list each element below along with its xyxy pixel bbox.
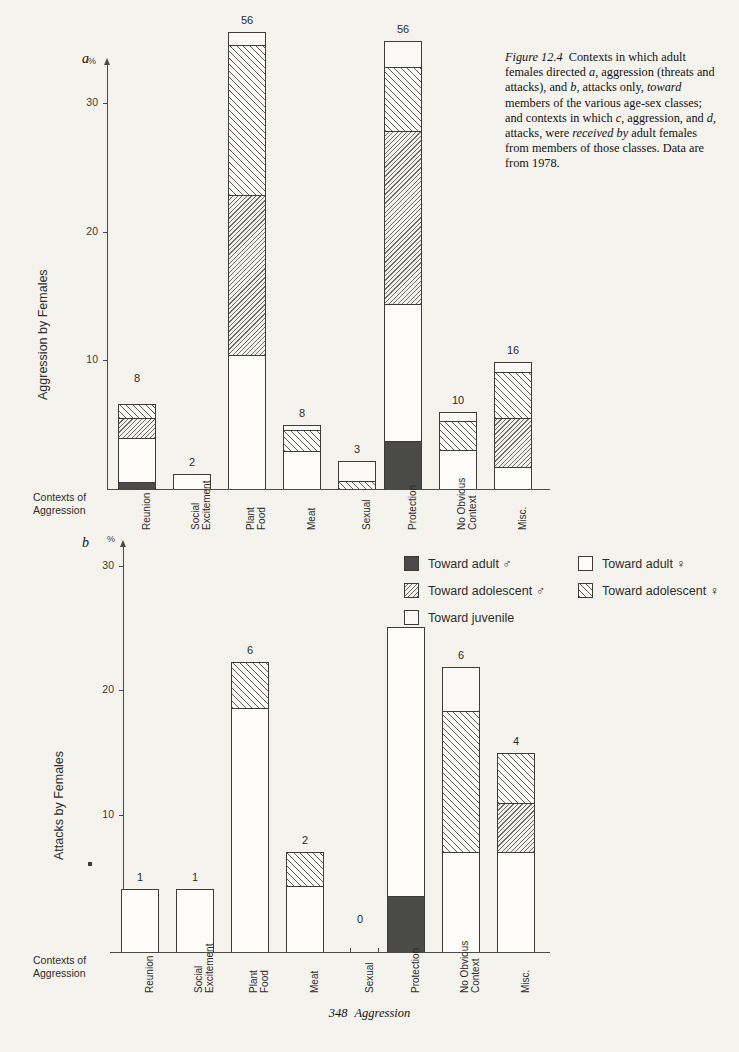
panel-a-ytick-label-30: 30 <box>74 96 98 108</box>
bar-protection-a <box>384 41 422 489</box>
panel-b-ytick-label-30: 30 <box>90 559 114 571</box>
xlabel-misc-a: Misc. <box>517 507 529 530</box>
xlabel-plant-food-a: PlantFood <box>245 507 267 530</box>
figure-caption-text: Contexts in which adult females directed… <box>505 50 716 170</box>
bar-reunion-a <box>118 390 156 489</box>
bar-reunion-b <box>121 889 159 952</box>
legend-swatch-adult-male-icon <box>404 556 419 571</box>
bar-seg-adult-female <box>283 451 321 489</box>
bar-seg-juvenile <box>228 32 266 45</box>
panel-a-y-axis <box>107 64 108 489</box>
bar-seg-adult-female <box>442 852 480 952</box>
bar-seg-adult-female <box>384 304 422 441</box>
legend-item-juvenile: Toward juvenile <box>404 610 514 625</box>
panel-b-y-axis-title: Attacks by Females <box>52 751 66 860</box>
bar-value-meat-a: 8 <box>283 407 321 419</box>
xlabel-reunion-b: Reunion <box>144 956 156 993</box>
bar-seg-adolescent-female <box>283 430 321 451</box>
legend-label-adult-male: Toward adult ♂ <box>428 557 512 571</box>
bar-seg-adolescent-female <box>439 421 477 450</box>
legend-item-adolescent-female: Toward adolescent ♀ <box>578 583 719 598</box>
bar-seg-juvenile <box>442 667 480 711</box>
legend-label-adult-female: Toward adult ♀ <box>602 557 686 571</box>
bar-value-sexual-a: 3 <box>338 443 376 455</box>
bar-seg-adult-female <box>231 708 269 952</box>
bar-value-reunion-b: 1 <box>121 871 159 883</box>
bar-protection-b <box>387 627 425 952</box>
legend-swatch-juvenile-icon <box>404 610 419 625</box>
bar-seg-adolescent-female <box>231 662 269 708</box>
bar-seg-adult-male <box>118 482 156 489</box>
xlabel-sexual-a: Sexual <box>361 499 373 530</box>
bar-value-plant-food-a: 56 <box>228 14 266 26</box>
legend-item-adult-male: Toward adult ♂ <box>404 556 512 571</box>
bar-seg-adult-male <box>387 896 425 952</box>
running-head: Aggression <box>354 1006 410 1020</box>
panel-a-ytick-label-20: 20 <box>74 225 98 237</box>
bar-misc-a <box>494 362 532 489</box>
bar-seg-adolescent-male <box>384 131 422 304</box>
panel-b-ytick-10 <box>119 815 124 816</box>
bar-seg-juvenile <box>494 362 532 372</box>
baseline-tick-sexual-left <box>350 948 351 952</box>
bar-plant-food-b <box>231 662 269 952</box>
bar-value-sexual-b: 0 <box>341 913 379 925</box>
bar-value-no-obvious-context-a: 10 <box>439 394 477 406</box>
panel-a-x-axis-title: Contexts ofAggression <box>33 491 86 516</box>
bar-misc-b <box>497 753 535 952</box>
panel-a-ytick-20 <box>103 232 108 233</box>
panel-b-ytick-30 <box>119 566 124 567</box>
panel-b-ytick-label-20: 20 <box>90 683 114 695</box>
legend-label-adolescent-female: Toward adolescent ♀ <box>602 584 719 598</box>
bar-value-social-excitement-a: 2 <box>173 456 211 468</box>
bar-seg-adult-female <box>387 627 425 896</box>
bar-seg-adolescent-female <box>286 852 324 886</box>
panel-label-b: b <box>82 535 89 551</box>
panel-b-ytick-label-10: 10 <box>90 808 114 820</box>
page-number: 348 <box>329 1006 348 1020</box>
bar-no-obvious-context-b <box>442 667 480 952</box>
bar-value-plant-food-b: 6 <box>231 644 269 656</box>
xlabel-sexual-b: Sexual <box>364 962 376 993</box>
panel-a-x-axis <box>107 489 550 490</box>
bar-sexual-a <box>338 461 376 489</box>
bar-value-misc-a: 16 <box>494 344 532 356</box>
bar-value-social-excitement-b: 1 <box>176 871 214 883</box>
panel-b-x-axis-title: Contexts ofAggression <box>33 954 86 979</box>
legend-item-adult-female: Toward adult ♀ <box>578 556 686 571</box>
page-footer: 348Aggression <box>0 1006 739 1021</box>
bar-seg-juvenile <box>439 412 477 421</box>
bar-seg-adolescent-female <box>384 67 422 131</box>
panel-b-x-axis <box>110 952 550 953</box>
bar-seg-juvenile <box>338 461 376 481</box>
bar-seg-adolescent-male <box>228 195 266 355</box>
bar-seg-adult-female <box>286 886 324 952</box>
bar-seg-adolescent-female <box>494 372 532 418</box>
xlabel-meat-b: Meat <box>309 971 321 993</box>
bar-seg-adolescent-female <box>118 404 156 418</box>
xlabel-reunion-a: Reunion <box>141 493 153 530</box>
bar-meat-a <box>283 425 321 489</box>
bar-plant-food-a <box>228 32 266 489</box>
figure-number: Figure 12.4 <box>505 50 563 64</box>
bar-seg-adolescent-female <box>228 45 266 195</box>
bar-seg-adult-female <box>228 355 266 489</box>
xlabel-plant-food-b: PlantFood <box>248 970 270 993</box>
bar-value-misc-b: 4 <box>497 735 535 747</box>
bar-seg-adolescent-male <box>494 418 532 467</box>
panel-b-axis-marker <box>88 862 92 866</box>
legend-label-adolescent-male: Toward adolescent ♂ <box>428 584 545 598</box>
bar-seg-juvenile <box>384 41 422 67</box>
panel-b-ytick-20 <box>119 690 124 691</box>
bar-value-protection-a: 56 <box>384 23 422 35</box>
xlabel-no-obvious-context-b: No ObviousContext <box>459 941 481 993</box>
xlabel-protection-b: Protection <box>410 948 422 993</box>
bar-seg-adolescent-female <box>497 753 535 803</box>
bar-seg-adult-female <box>497 852 535 952</box>
panel-a-y-axis-title: Aggression by Females <box>36 269 50 400</box>
xlabel-no-obvious-context-a: No ObviousContext <box>456 478 478 530</box>
xlabel-meat-a: Meat <box>306 508 318 530</box>
bar-value-no-obvious-context-b: 6 <box>442 649 480 661</box>
bar-seg-adult-male <box>384 441 422 489</box>
bar-seg-adult-female <box>494 467 532 489</box>
